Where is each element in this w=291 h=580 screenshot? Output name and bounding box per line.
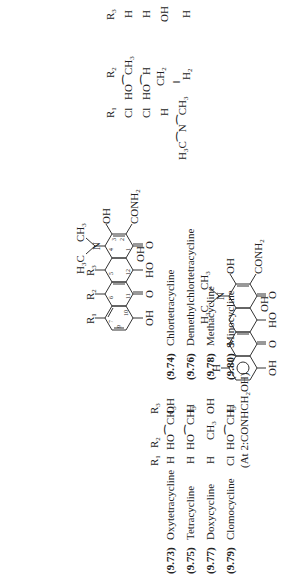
thia-o-1: O [266,291,278,299]
thia-n: N [214,292,226,300]
thia-h: H [210,364,222,372]
thia-structure-drawing [0,0,291,580]
thia-o-11: O [266,340,278,348]
thia-h3c: H3C [198,305,214,324]
rotated-figure: 10 9 7 6 5 4 3 2 1 12 11 R1 R2 R3 N H3C … [0,0,291,580]
thia-oh-d: OH [266,360,278,376]
thia-conh2: CONH2 [252,239,268,274]
thia-s: S [224,342,236,348]
thia-ch3: CH3 [198,271,214,290]
thia-ho-12: HO [266,312,278,328]
thia-oh-a: OH [224,258,236,274]
